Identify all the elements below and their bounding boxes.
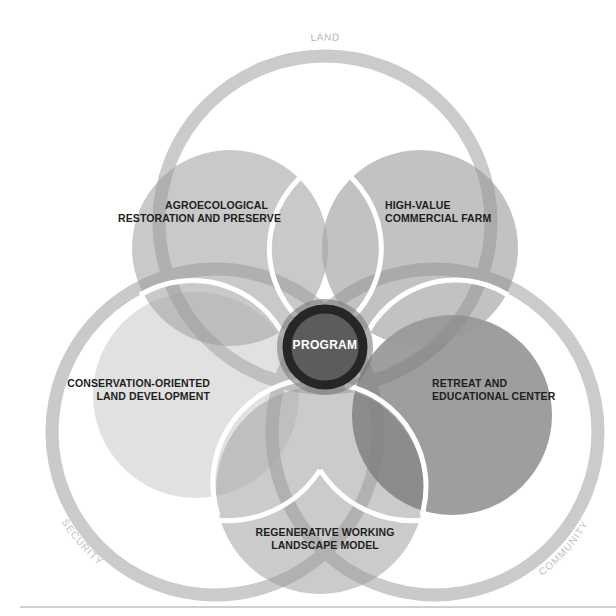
program-label: PROGRAM [285, 338, 365, 352]
program-venn-diagram: LAND SECURITY COMMUNITY [0, 0, 616, 616]
ring-label-land: LAND [310, 31, 340, 43]
label-regenerative: REGENERATIVE WORKING LANDSCAPE MODEL [240, 526, 410, 552]
label-agroecological: AGROECOLOGICAL RESTORATION AND PRESERVE [118, 199, 268, 225]
label-conservation: CONSERVATION-ORIENTED LAND DEVELOPMENT [60, 377, 210, 403]
label-retreat: RETREAT AND EDUCATIONAL CENTER [432, 377, 555, 403]
label-high-value: HIGH-VALUE COMMERCIAL FARM [385, 199, 491, 225]
bottom-divider [20, 606, 616, 608]
